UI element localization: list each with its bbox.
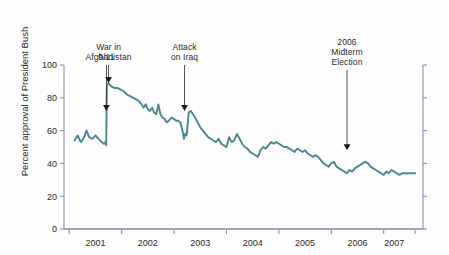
y-tick-label: 40 [47, 159, 57, 169]
y-tick-label: 0 [52, 224, 57, 234]
approval-rating-chart: Percent approval of President Bush 02040… [0, 0, 449, 255]
x-tick-label: 2004 [243, 238, 263, 248]
x-tick-label: 2003 [190, 238, 210, 248]
annotation-text-line: Attack [125, 42, 245, 52]
annotation-arrow-group [103, 65, 350, 150]
x-tick-label: 2007 [384, 238, 404, 248]
annotation-label-attack-on-iraq: Attackon Iraq [125, 42, 245, 62]
annotation-arrow-head-nine-eleven [103, 105, 110, 111]
annotation-text-line: 2006 [287, 37, 407, 47]
annotation-text-line: Election [287, 57, 407, 67]
x-tick-label: 2002 [138, 238, 158, 248]
x-tick-label: 2006 [347, 238, 367, 248]
approval-line-series [74, 83, 415, 175]
y-tick-label: 80 [47, 93, 57, 103]
y-tick-label: 20 [47, 192, 57, 202]
x-axis-tick-group: 2001200220032004200520062007 [69, 229, 415, 248]
annotation-text-line: on Iraq [125, 52, 245, 62]
y-axis-tick-group: 020406080100 [42, 60, 427, 234]
annotation-arrow-head-midterm-election-2006 [344, 144, 351, 150]
x-tick-label: 2005 [295, 238, 315, 248]
y-tick-label: 60 [47, 126, 57, 136]
annotation-label-midterm-election-2006: 2006MidtermElection [287, 37, 407, 67]
annotation-arrow-head-attack-on-iraq [181, 105, 188, 111]
annotation-text-line: Midterm [287, 47, 407, 57]
y-axis-title: Percent approval of President Bush [19, 22, 30, 182]
x-tick-label: 2001 [85, 238, 105, 248]
